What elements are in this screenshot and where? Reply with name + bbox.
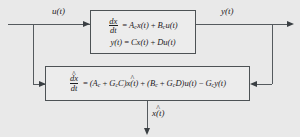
plant-state-space-block[interactable]: dx dt = Acx(t) + Bcu(t) y(t) = Cx(t) + D… <box>90 10 196 54</box>
observer-eq-minus: − <box>197 79 206 89</box>
plant-eq2-plus: + <box>148 38 157 48</box>
observer-eq-numerator: ^ dx <box>69 74 79 83</box>
block-diagram: dx dt = Acx(t) + Bcu(t) y(t) = Cx(t) + D… <box>0 0 300 137</box>
observer-eq-G-subscript-3: c <box>212 82 215 89</box>
plant-eq1-u-var: u(t) <box>165 21 177 31</box>
plant-eq2-term2: Du(t) <box>157 38 175 48</box>
signal-label-input: u(t) <box>52 6 65 16</box>
observer-eq-u-var: u(t) <box>184 79 196 89</box>
derivative-fraction-x: dx dt <box>108 17 118 36</box>
plant-eq2-term1: Cx(t) <box>131 38 148 48</box>
signal-label-output: y(t) <box>221 6 234 16</box>
hat-accent-numerator: ^ <box>72 71 76 79</box>
observer-eq-B-subscript: c <box>155 82 158 89</box>
wire-input-branch-vertical <box>33 24 34 84</box>
wire-output-horizontal <box>196 24 289 25</box>
plant-eq1-A-subscript: c <box>134 24 137 31</box>
observer-eq-y-var: y(t) <box>214 79 226 89</box>
plant-eq1-plus: + <box>149 21 158 31</box>
observer-equation: ^ dx dt = (Ac + GcC)^x(t) + (Bc + GcD)u(… <box>69 74 226 93</box>
arrowhead-estimate <box>144 128 150 135</box>
plant-equation-output: y(t) = Cx(t) + Du(t) <box>110 38 175 48</box>
wire-input-horizontal <box>8 24 90 25</box>
xhat-state-wrap: ^x(t) <box>127 79 139 89</box>
wire-feedback-to-observer <box>256 84 272 85</box>
arrowhead-plant-input <box>83 21 90 27</box>
plant-eq2-equals: = <box>122 38 131 48</box>
hat-accent-signal: ^ <box>156 105 160 113</box>
observer-eq-G-subscript-2: c <box>173 82 176 89</box>
plant-eq1-x-var: x(t) <box>137 21 149 31</box>
xhat-numerator-wrap: ^ dx <box>70 74 78 83</box>
wire-feedback-vertical <box>272 24 273 84</box>
signal-label-estimate: ^ x(t) <box>152 108 165 118</box>
observer-eq-plus-3: + <box>158 79 167 89</box>
arrowhead-output <box>287 21 294 27</box>
observer-eq-plus-1: + <box>100 79 109 89</box>
observer-eq-denominator: dt <box>70 83 79 93</box>
hat-accent-state: ^ <box>131 75 135 83</box>
observer-eq-plus-2: + <box>138 79 147 89</box>
observer-eq-A-subscript: c <box>98 82 101 89</box>
plant-eq1-B-subscript: c <box>163 24 166 31</box>
arrowhead-observer-feedback <box>250 81 257 87</box>
plant-equation-state: dx dt = Acx(t) + Bcu(t) <box>108 17 177 36</box>
observer-eq-G-subscript-1: c <box>115 82 118 89</box>
observer-eq-equals: = <box>81 79 90 89</box>
plant-eq1-denominator: dt <box>109 25 118 35</box>
plant-eq1-equals: = <box>120 21 129 31</box>
plant-eq2-lhs: y(t) <box>110 38 122 48</box>
derivative-fraction-xhat: ^ dx dt <box>69 74 79 93</box>
observer-state-space-block[interactable]: ^ dx dt = (Ac + GcC)^x(t) + (Bc + GcD)u(… <box>45 66 250 101</box>
plant-eq1-numerator: dx <box>108 17 118 26</box>
xhat-signal-wrap: ^ x(t) <box>152 108 165 118</box>
wire-estimate-vertical <box>147 101 148 130</box>
